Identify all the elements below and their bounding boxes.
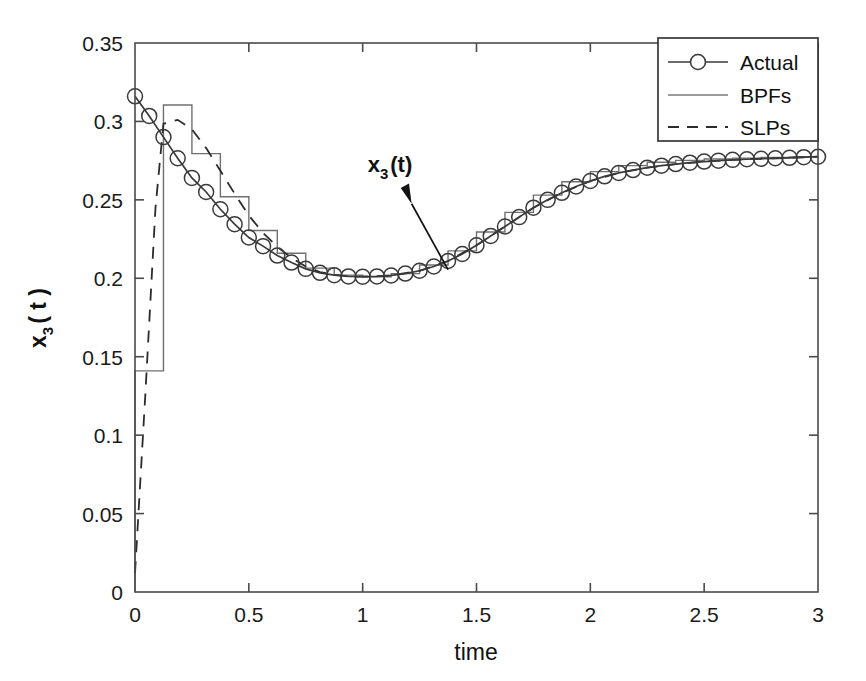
x-tick-label: 2.5: [690, 603, 719, 626]
legend-label-actual: Actual: [740, 51, 798, 74]
svg-text:time: time: [454, 639, 497, 665]
x-tick-label: 0: [129, 603, 141, 626]
x-tick-label: 2: [584, 603, 596, 626]
legend-label-slps: SLPs: [740, 116, 790, 139]
chart-canvas: 00.511.522.5300.050.10.150.20.250.30.35 …: [0, 0, 866, 681]
y-axis-title: x3( t ): [25, 288, 56, 348]
legend-marker-circle-icon: [691, 55, 706, 70]
y-tick-label: 0.2: [94, 267, 123, 290]
y-tick-label: 0.15: [82, 346, 123, 369]
x-axis-title: time: [454, 639, 497, 665]
y-tick-label: 0.35: [82, 32, 123, 55]
y-tick-label: 0.3: [94, 110, 123, 133]
y-tick-label: 0.1: [94, 424, 123, 447]
y-tick-label: 0.25: [82, 189, 123, 212]
x-tick-label: 1.5: [462, 603, 491, 626]
x-tick-label: 1: [357, 603, 369, 626]
svg-text:x3( t ): x3( t ): [25, 288, 56, 348]
y-tick-label: 0.05: [82, 503, 123, 526]
x-tick-label: 0.5: [234, 603, 263, 626]
x-tick-label: 3: [812, 603, 824, 626]
legend: Actual BPFs SLPs: [658, 38, 818, 141]
legend-label-bpfs: BPFs: [740, 84, 791, 107]
figure-container: 00.511.522.5300.050.10.150.20.250.30.35 …: [0, 0, 866, 681]
y-tick-label: 0: [111, 581, 123, 604]
